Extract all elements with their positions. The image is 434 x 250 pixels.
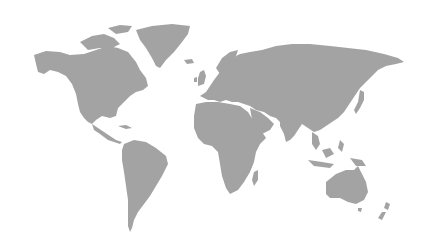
region-greenland (136, 24, 190, 68)
region-tasmania (358, 208, 362, 212)
region-united-kingdom (194, 70, 206, 86)
region-madagascar (252, 170, 258, 186)
region-arctic-islands (80, 25, 132, 50)
region-south-america (122, 140, 168, 232)
region-new-zealand (378, 202, 390, 220)
world-map-graphic (0, 0, 434, 250)
region-north-america (34, 46, 148, 124)
region-southeast-asia (308, 132, 366, 168)
region-central-america (92, 124, 132, 144)
region-iceland (184, 59, 194, 64)
world-map: World map (0, 0, 434, 250)
region-australia (326, 166, 368, 204)
